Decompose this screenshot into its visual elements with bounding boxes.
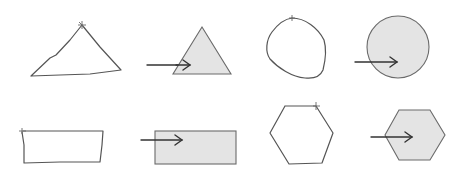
shape-rectangle — [155, 131, 236, 164]
sketch-circle — [267, 18, 326, 78]
shape-hexagon — [385, 110, 445, 160]
sketch-rectangle — [22, 131, 103, 163]
shape-triangle — [173, 27, 231, 74]
start-mark-icon — [313, 102, 320, 110]
sketch-triangle — [31, 25, 121, 76]
diagram-canvas — [0, 0, 457, 175]
sketch-hexagon — [270, 106, 333, 164]
pair-rectangle — [19, 128, 236, 164]
pair-circle — [267, 15, 429, 78]
pair-triangle — [31, 21, 231, 76]
start-mark-icon — [289, 15, 295, 21]
pair-hexagon — [270, 102, 445, 164]
shape-circle — [367, 16, 429, 78]
